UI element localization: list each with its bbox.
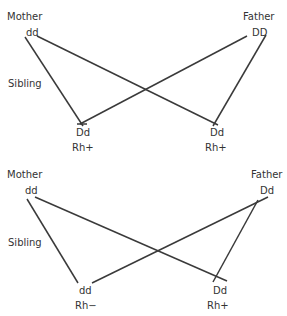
- line-mother-to-child2-bottom: [35, 197, 227, 281]
- sibling-label-top: Sibling: [8, 78, 42, 90]
- sibling-label-bottom: Sibling: [8, 237, 42, 249]
- mother-genotype-top: dd: [26, 27, 39, 39]
- father-label-top: Father: [243, 11, 274, 23]
- child1-genotype-top: Dd: [76, 127, 90, 139]
- child1-phenotype-top: Rh+: [72, 142, 94, 154]
- mother-label-bottom: Mother: [7, 169, 42, 181]
- line-father-to-child2-top: [213, 35, 266, 126]
- father-genotype-top: DD: [252, 27, 267, 39]
- child2-genotype-top: Dd: [210, 127, 224, 139]
- line-mother-to-child2-top: [37, 36, 218, 125]
- father-genotype-bottom: Dd: [260, 185, 274, 197]
- child1-genotype-bottom: dd: [79, 285, 92, 297]
- mother-label-top: Mother: [7, 11, 42, 23]
- father-label-bottom: Father: [251, 169, 282, 181]
- mother-genotype-bottom: dd: [25, 185, 38, 197]
- child2-genotype-bottom: Dd: [213, 285, 227, 297]
- child2-phenotype-bottom: Rh+: [207, 300, 229, 312]
- child2-phenotype-top: Rh+: [205, 142, 227, 154]
- child1-phenotype-bottom: Rh−: [75, 300, 97, 312]
- inheritance-lines: [0, 0, 287, 316]
- line-father-to-child1-bottom: [92, 197, 268, 283]
